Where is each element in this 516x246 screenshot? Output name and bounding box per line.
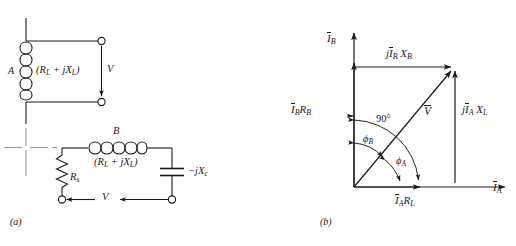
iarl-r-sub: L bbox=[410, 199, 414, 208]
ibrb-r-sub: B bbox=[306, 108, 311, 117]
resistor-rs-label: Rs bbox=[70, 172, 79, 184]
jiaxl-x-sub: L bbox=[483, 108, 487, 117]
phasor-label-ibrb: IBRB bbox=[291, 104, 311, 117]
caption-a: (a) bbox=[10, 216, 22, 227]
overline-bar bbox=[395, 194, 399, 195]
voltage-label-a: V bbox=[107, 64, 113, 75]
inductor-coil-a bbox=[20, 42, 32, 100]
ia-symbol: I bbox=[493, 181, 497, 193]
overline-bar bbox=[389, 47, 393, 48]
coil-a-label: A bbox=[8, 66, 14, 76]
angle-label-90: 90° bbox=[376, 114, 391, 125]
overline-bar bbox=[291, 103, 295, 104]
phasor-label-jiaxl: jIA XL bbox=[462, 104, 487, 117]
terminal-top-a bbox=[98, 37, 105, 44]
inductor-coil-b bbox=[89, 142, 147, 154]
impedance-b-close: ) bbox=[134, 156, 138, 167]
overline-bar bbox=[465, 103, 469, 104]
overline-bar bbox=[493, 181, 497, 182]
iarl-i: I bbox=[395, 194, 399, 206]
phasor-v bbox=[354, 71, 451, 187]
jibxb-overline-group: I bbox=[389, 48, 393, 59]
impedance-a-plus: + bbox=[50, 64, 62, 75]
phi-a-sub: A bbox=[401, 159, 406, 168]
impedance-a-close: ) bbox=[76, 64, 80, 75]
terminal-bottom-a bbox=[98, 98, 105, 105]
angle-label-phi-a: ϕA bbox=[396, 156, 406, 168]
overline-bar bbox=[424, 105, 431, 106]
arc-90-degrees bbox=[354, 120, 419, 180]
jiaxl-overline-group: I bbox=[465, 104, 469, 115]
ib-overline-group: I bbox=[327, 33, 331, 44]
v-symbol: V bbox=[424, 105, 431, 117]
v-overline-group: V bbox=[424, 106, 431, 118]
ibrb-overline-group: I bbox=[291, 104, 295, 115]
axis-label-ia: IA bbox=[493, 182, 502, 195]
figure-svg bbox=[0, 0, 516, 246]
impedance-b-plus: + bbox=[108, 156, 120, 167]
impedance-label-b: (RL + jXL) bbox=[94, 157, 138, 169]
terminal-right-b bbox=[168, 196, 175, 203]
overline-bar bbox=[327, 32, 331, 33]
jibxb-x-sub: B bbox=[407, 52, 412, 61]
capacitor-label: −jXc bbox=[188, 166, 208, 178]
angle-label-phi-b: ϕB bbox=[363, 134, 373, 146]
ib-sub: B bbox=[331, 37, 336, 46]
panel-divider bbox=[4, 128, 57, 176]
figure-container: A (RL + jXL) V B (RL + jXL) Rs −jXc V (a… bbox=[0, 0, 516, 246]
impedance-label-a: (RL + jXL) bbox=[36, 65, 80, 77]
caption-b: (b) bbox=[320, 216, 332, 227]
iarl-overline-group: I bbox=[395, 195, 399, 206]
phasor-label-v: V bbox=[424, 106, 431, 118]
ibrb-i: I bbox=[291, 103, 295, 115]
phasor-label-iarl: IARL bbox=[395, 195, 415, 208]
jiaxl-i: I bbox=[465, 103, 469, 115]
rs-sub: s bbox=[76, 175, 79, 184]
voltage-label-b: V bbox=[102, 192, 108, 203]
axis-label-ib: IB bbox=[327, 33, 336, 46]
phasor-label-jibxb: jIB XB bbox=[386, 48, 412, 61]
ia-sub: A bbox=[497, 186, 502, 195]
phi-b-sub: B bbox=[368, 137, 373, 146]
jiaxl-x: X bbox=[474, 103, 483, 115]
jibxb-i: I bbox=[389, 47, 393, 59]
cap-x-sub: c bbox=[204, 169, 207, 178]
jibxb-x: X bbox=[398, 47, 407, 59]
coil-b-label: B bbox=[113, 126, 119, 137]
ia-overline-group: I bbox=[493, 182, 497, 193]
ib-symbol: I bbox=[327, 32, 331, 44]
terminal-left-b bbox=[58, 196, 65, 203]
resistor-rs bbox=[57, 155, 68, 188]
